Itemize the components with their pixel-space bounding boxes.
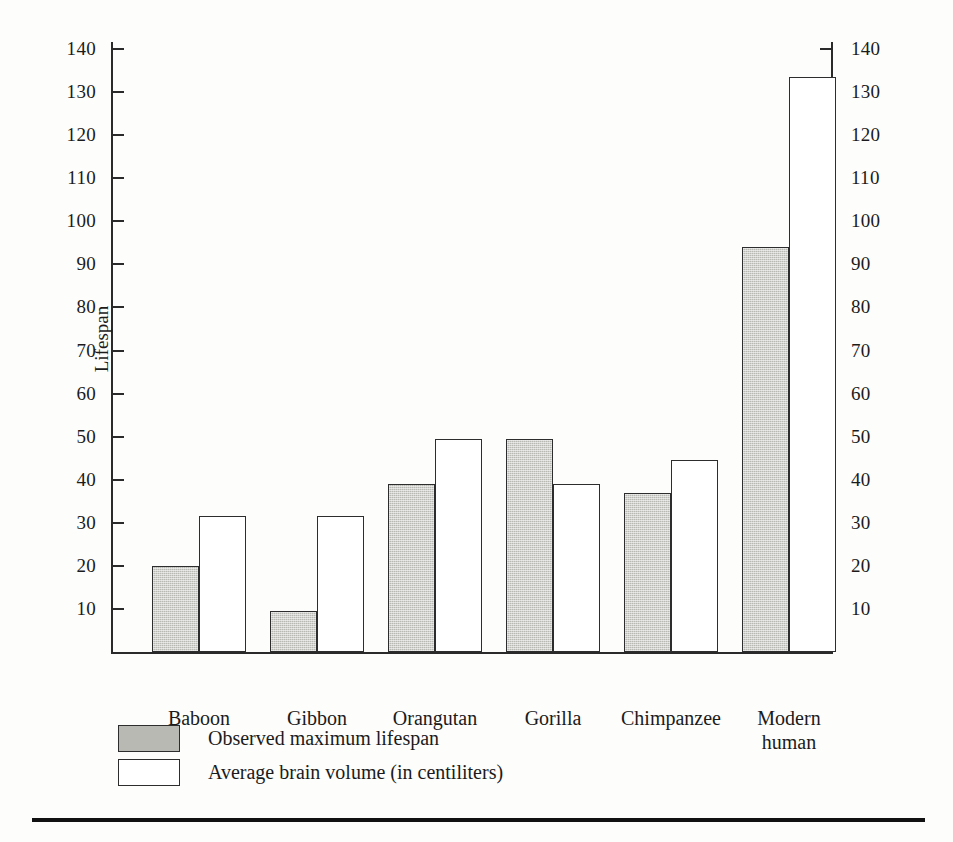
left-axis-tick	[113, 608, 124, 610]
bar	[152, 566, 199, 652]
left-axis-title: Lifespan	[91, 279, 113, 399]
bar	[553, 484, 600, 652]
right-axis-tick-label: 30	[851, 513, 871, 532]
bar-group	[270, 42, 364, 652]
left-axis-tick-label: 130	[67, 82, 96, 101]
left-axis-tick	[113, 134, 124, 136]
footer-horizontal-rule	[32, 818, 925, 822]
left-axis-tick-label: 10	[76, 599, 96, 618]
bar-texture	[507, 440, 552, 651]
left-axis-tick-label: 30	[76, 513, 96, 532]
right-axis-tick-label: 50	[851, 427, 871, 446]
right-axis-tick-label: 40	[851, 470, 871, 489]
bar-texture	[625, 494, 670, 651]
gray-swatch-icon	[118, 725, 180, 752]
left-axis-tick	[113, 220, 124, 222]
bar	[270, 611, 317, 652]
left-axis-tick-label: 120	[67, 125, 96, 144]
bar	[199, 516, 246, 652]
bar-texture	[153, 567, 198, 651]
left-axis-tick	[113, 263, 124, 265]
right-axis-tick-label: 70	[851, 341, 871, 360]
left-axis-tick	[113, 436, 124, 438]
left-axis-tick	[113, 350, 124, 352]
left-axis-tick-label: 140	[67, 39, 96, 58]
left-axis-tick-label: 40	[76, 470, 96, 489]
left-axis-tick-label: 100	[67, 211, 96, 230]
bar	[624, 493, 671, 652]
bar	[317, 516, 364, 652]
left-axis-tick	[113, 479, 124, 481]
bar	[671, 460, 718, 652]
bar-group	[506, 42, 600, 652]
bar	[435, 439, 482, 652]
right-axis-tick-label: 100	[851, 211, 880, 230]
bar-texture	[743, 248, 788, 651]
left-axis-tick-label: 20	[76, 556, 96, 575]
bar-group	[624, 42, 718, 652]
bar	[742, 247, 789, 652]
bar	[506, 439, 553, 652]
bar-chart-plot-area: 102030405060708090100110120130140 102030…	[111, 42, 833, 654]
left-axis-tick-label: 110	[67, 168, 96, 187]
bar	[789, 77, 836, 652]
bar	[388, 484, 435, 652]
bar-group	[152, 42, 246, 652]
bar-texture	[271, 612, 316, 651]
legend-label: Average brain volume (in centiliters)	[208, 761, 503, 783]
bar-group	[742, 42, 836, 652]
left-axis-tick	[113, 306, 124, 308]
right-axis-tick-label: 110	[851, 168, 880, 187]
left-axis-tick-label: 90	[76, 254, 96, 273]
category-label: Modern human	[720, 706, 858, 754]
white-swatch-icon	[118, 759, 180, 786]
x-axis-baseline	[111, 652, 833, 654]
bar-group	[388, 42, 482, 652]
right-axis-tick-label: 10	[851, 599, 871, 618]
right-axis-tick-label: 80	[851, 297, 871, 316]
figure-page: 102030405060708090100110120130140 102030…	[0, 0, 953, 842]
left-axis-tick-label: 50	[76, 427, 96, 446]
bar-texture	[389, 485, 434, 651]
right-axis-tick-label: 20	[851, 556, 871, 575]
legend-item-average-brain-volume: Average brain volume (in centiliters)	[118, 757, 503, 787]
left-axis-tick	[113, 565, 124, 567]
right-axis-tick-label: 130	[851, 82, 880, 101]
right-axis-tick-label: 60	[851, 384, 871, 403]
right-axis-tick-label: 90	[851, 254, 871, 273]
right-axis-tick-label: 120	[851, 125, 880, 144]
right-axis-tick-label: 140	[851, 39, 880, 58]
left-axis-tick	[113, 48, 124, 50]
left-axis-tick	[113, 393, 124, 395]
left-axis-tick	[113, 91, 124, 93]
left-axis-tick	[113, 177, 124, 179]
legend-label: Observed maximum lifespan	[208, 727, 439, 749]
legend-item-observed-maximum-lifespan: Observed maximum lifespan	[118, 723, 503, 753]
chart-legend: Observed maximum lifespan Average brain …	[118, 723, 503, 791]
left-axis-tick	[113, 522, 124, 524]
